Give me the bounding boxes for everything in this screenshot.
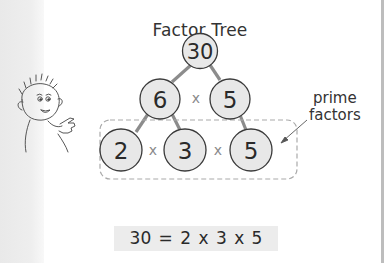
cartoon-boy-icon — [18, 74, 75, 152]
tree-node-level1-right: 5 — [210, 79, 250, 119]
svg-text:6: 6 — [153, 87, 168, 113]
multiply-sign: x — [149, 142, 157, 158]
prime-label-line1: prime — [299, 90, 369, 107]
svg-text:5: 5 — [244, 138, 259, 164]
tree-node-prime-2: 2 — [100, 129, 142, 171]
svg-text:3: 3 — [178, 138, 193, 164]
prime-label-line2: factors — [299, 107, 369, 124]
multiply-sign: x — [192, 90, 200, 106]
prime-factors-label: prime factors — [299, 90, 369, 124]
multiply-sign: x — [214, 142, 222, 158]
factor-tree-diagram: 30 6 x 5 2 x 3 x 5 — [0, 0, 390, 263]
tree-node-level1-left: 6 — [140, 79, 180, 119]
tree-node-prime-3: 3 — [164, 129, 206, 171]
tree-node-prime-5: 5 — [230, 129, 272, 171]
tree-node-root: 30 — [183, 34, 218, 69]
svg-text:30: 30 — [187, 40, 214, 64]
svg-text:2: 2 — [114, 138, 129, 164]
equation-box: 30 = 2 x 3 x 5 — [114, 226, 278, 251]
svg-text:5: 5 — [223, 87, 238, 113]
